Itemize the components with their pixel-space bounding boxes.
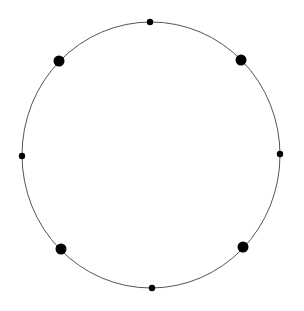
node-bottom-small: [149, 285, 155, 291]
node-right-small: [277, 151, 283, 157]
background: [0, 0, 304, 311]
node-lower-right-large: [238, 242, 249, 253]
circle-diagram: [0, 0, 304, 311]
node-upper-left-large: [54, 56, 65, 67]
node-lower-left-large: [56, 244, 67, 255]
node-top-small: [147, 19, 153, 25]
node-left-small: [19, 153, 25, 159]
node-upper-right-large: [236, 55, 247, 66]
